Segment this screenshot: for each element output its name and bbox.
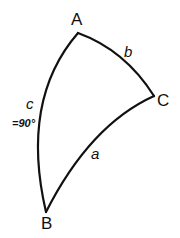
side-c-angle-note: =90° (12, 118, 35, 129)
spherical-triangle-diagram: A C B b a c =90° (0, 0, 180, 238)
arc-side-b (78, 33, 154, 96)
vertex-label-a: A (71, 11, 82, 28)
vertex-label-c: C (157, 92, 169, 109)
arc-side-a (46, 96, 154, 212)
arc-side-c (38, 33, 78, 212)
side-label-c: c (26, 96, 34, 111)
vertex-label-b: B (41, 215, 52, 232)
side-label-a: a (91, 146, 99, 161)
side-label-b: b (124, 44, 132, 59)
